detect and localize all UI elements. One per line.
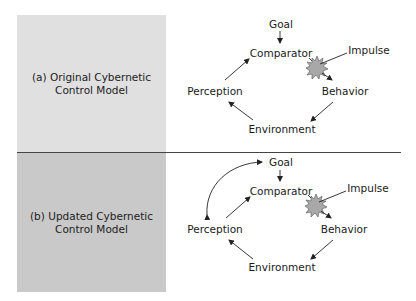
arrow-behavior-to-environment-b — [311, 240, 333, 259]
node-environment-a: Environment — [248, 123, 315, 135]
arrow-behavior-to-environment-a — [311, 102, 333, 121]
starburst-icon-a — [306, 56, 328, 79]
node-impulse-a: Impulse — [348, 44, 390, 56]
node-comparator-b: Comparator — [250, 185, 313, 197]
arrow-environment-to-perception-a — [229, 102, 253, 120]
diagram-b — [207, 162, 346, 259]
arrow-perception-to-comparator-b — [226, 197, 250, 218]
node-impulse-b: Impulse — [347, 182, 389, 194]
node-perception-a: Perception — [187, 85, 243, 97]
node-goal-a: Goal — [269, 18, 293, 30]
arrow-environment-to-perception-b — [229, 240, 253, 259]
diagram-a — [225, 31, 347, 121]
node-perception-b: Perception — [187, 223, 243, 235]
node-goal-b: Goal — [269, 156, 293, 168]
node-environment-b: Environment — [248, 261, 315, 273]
arrow-impulse-to-behavior-b — [321, 211, 331, 218]
node-behavior-b: Behavior — [321, 223, 368, 235]
node-comparator-a: Comparator — [250, 47, 313, 59]
arrow-impulse-to-behavior-a — [322, 73, 332, 80]
arrow-perception-to-comparator-a — [225, 59, 249, 80]
node-behavior-a: Behavior — [322, 85, 369, 97]
starburst-icon-b — [305, 194, 327, 217]
